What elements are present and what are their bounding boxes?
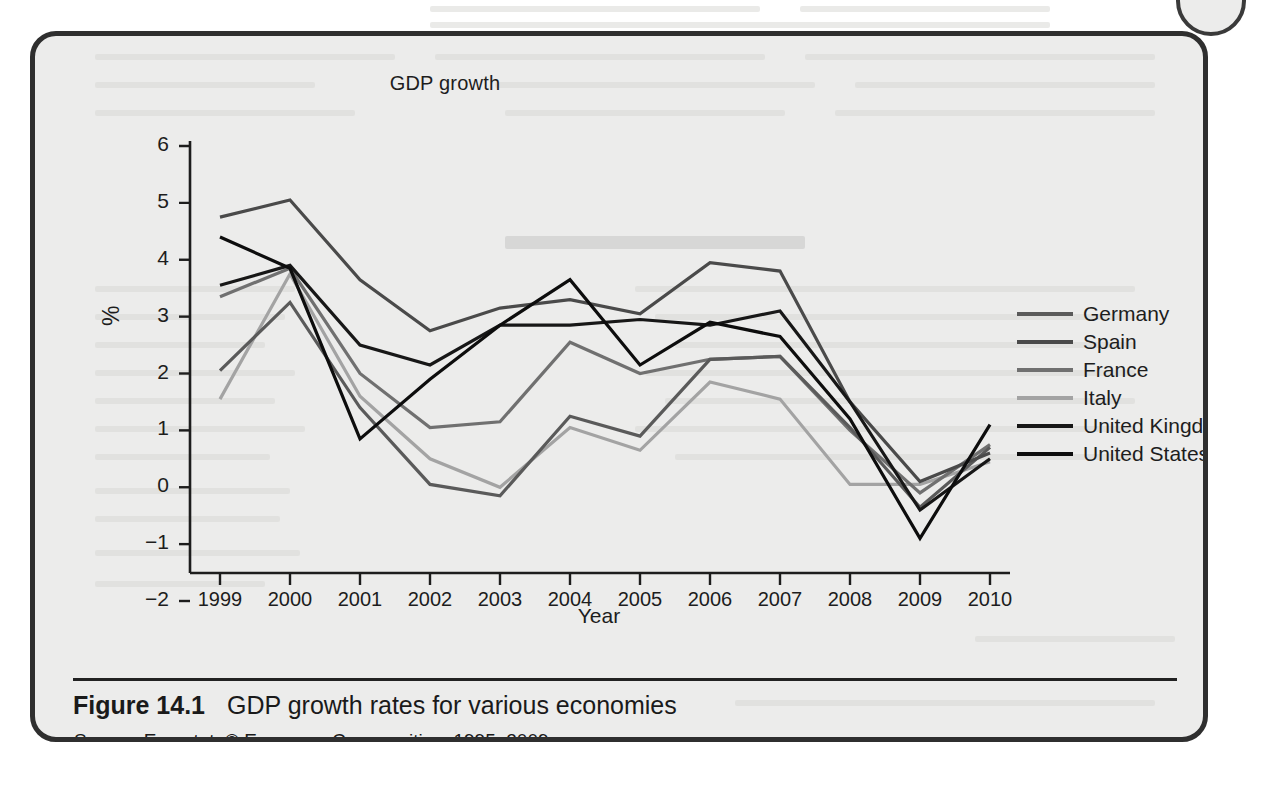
y-tick-label: 5 [123, 189, 169, 213]
x-tick-label: 2010 [953, 588, 1027, 611]
y-axis-ticks [179, 146, 190, 601]
legend-item-spain: Spain [1017, 328, 1208, 356]
data-series-group [220, 200, 990, 538]
x-tick-label: 2005 [603, 588, 677, 611]
x-tick-label: 2007 [743, 588, 817, 611]
x-tick-label: 2004 [533, 588, 607, 611]
source-label: Source [73, 730, 133, 742]
legend-swatch-icon [1017, 396, 1073, 400]
x-tick-label: 2001 [323, 588, 397, 611]
legend-label: United Kingdom [1083, 414, 1208, 438]
series-line-united-states [220, 237, 990, 538]
legend-label: France [1083, 358, 1148, 382]
series-line-germany [220, 302, 990, 507]
legend-swatch-icon [1017, 312, 1073, 316]
legend-swatch-icon [1017, 452, 1073, 456]
figure-caption-text: GDP growth rates for various economies [227, 691, 677, 719]
x-tick-label: 2003 [463, 588, 537, 611]
y-tick-label: 6 [123, 132, 169, 156]
figure-container: GDP growth % Year 6543210−1−2 1999200020… [30, 31, 1208, 742]
chart: GDP growth % Year 6543210−1−2 1999200020… [35, 36, 1208, 636]
x-tick-label: 2009 [883, 588, 957, 611]
y-tick-label: 2 [123, 360, 169, 384]
y-tick-label: 1 [123, 416, 169, 440]
legend-item-united-states: United States [1017, 440, 1208, 468]
legend-item-france: France [1017, 356, 1208, 384]
x-tick-label: 2000 [253, 588, 327, 611]
x-axis-ticks [220, 573, 990, 585]
legend-swatch-icon [1017, 368, 1073, 372]
legend-label: Germany [1083, 302, 1169, 326]
legend-label: United States [1083, 442, 1208, 466]
y-tick-label: −1 [123, 530, 169, 554]
legend-swatch-icon [1017, 424, 1073, 428]
figure-number: Figure 14.1 [73, 691, 205, 719]
figure-source: Source: Eurostat, © European Communities… [73, 730, 554, 742]
source-text: : Eurostat, © European Communities, 1995… [133, 730, 554, 742]
series-line-united-kingdom [220, 265, 990, 510]
y-tick-label: 4 [123, 246, 169, 270]
legend-item-united-kingdom: United Kingdom [1017, 412, 1208, 440]
legend-label: Italy [1083, 386, 1122, 410]
legend-item-italy: Italy [1017, 384, 1208, 412]
legend-swatch-icon [1017, 340, 1073, 344]
x-tick-label: 2006 [673, 588, 747, 611]
y-tick-label: −2 [123, 587, 169, 611]
x-tick-label: 1999 [183, 588, 257, 611]
chart-legend: GermanySpainFranceItalyUnited KingdomUni… [1017, 300, 1208, 468]
x-tick-label: 2002 [393, 588, 467, 611]
figure-caption: Figure 14.1GDP growth rates for various … [73, 691, 677, 720]
legend-label: Spain [1083, 330, 1137, 354]
y-tick-label: 0 [123, 473, 169, 497]
caption-rule [73, 678, 1177, 681]
x-tick-label: 2008 [813, 588, 887, 611]
y-tick-label: 3 [123, 303, 169, 327]
legend-item-germany: Germany [1017, 300, 1208, 328]
